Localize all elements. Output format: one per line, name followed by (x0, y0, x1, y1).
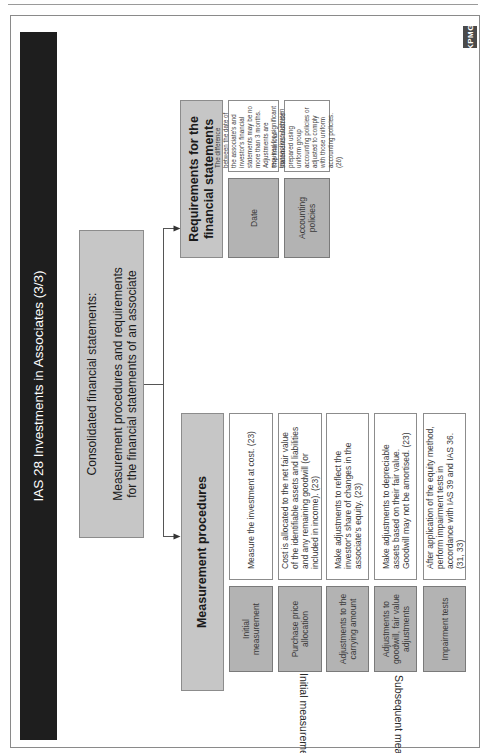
group-label-initial: Initial measurement (298, 673, 310, 743)
requirements-row-label: Date (228, 178, 279, 258)
measurement-row-text: Measure the investment at cost. (23) (229, 413, 273, 580)
connector-bar (163, 228, 164, 537)
measurement-row-label: Adjustments to the carrying amount (326, 586, 369, 672)
measurement-row-text: Make adjustments to depreciable assets b… (374, 413, 417, 580)
group-label-subsequent: Subsequent measurement (393, 675, 405, 745)
title-bar: IAS 28 Investments in Associates (3/3) (20, 32, 57, 740)
measurement-row-label: Adjustments to goodwill, fair value adju… (374, 586, 417, 672)
measurement-row-label: Impairment tests (423, 586, 466, 672)
root-title: Consolidated financial statements: (85, 293, 99, 476)
page-title: IAS 28 Investments in Associates (3/3) (31, 270, 46, 501)
rotated-page: KPMG IAS 28 Investments in Associates (3… (0, 0, 487, 753)
measurement-row-label: Purchase price allocation (278, 586, 322, 672)
root-box: Consolidated financial statements: Measu… (79, 230, 144, 538)
requirements-row-label: Accounting policies (284, 178, 330, 258)
arrow-down-icon (174, 534, 181, 540)
measurement-row-text: Cost is allocated to the net fair value … (278, 413, 322, 580)
connector-stem (144, 384, 163, 385)
kpmg-logo: KPMG (463, 26, 477, 48)
header-rule (8, 4, 478, 5)
requirements-row-text: The financial statements must be prepare… (284, 100, 330, 172)
measurement-row-text: After application of the equity method, … (423, 413, 466, 580)
measurement-header: Measurement procedures (181, 413, 224, 691)
measurement-row-label: Initial measurement (229, 586, 273, 672)
root-subtitle: Measurement procedures and requirements … (111, 264, 139, 504)
measurement-row-text: Make adjustments to reflect the investor… (326, 413, 369, 580)
